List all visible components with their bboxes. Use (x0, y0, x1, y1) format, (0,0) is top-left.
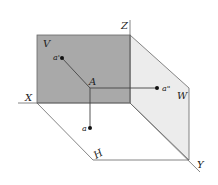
label-A: A (88, 76, 96, 87)
projection-diagram: Z X Y V W H A a' a" a (0, 0, 218, 185)
label-a-double-prime: a" (162, 84, 170, 93)
diagram-canvas: Z X Y V W H A a' a" a (0, 0, 218, 185)
label-a: a (82, 124, 87, 133)
label-z: Z (120, 20, 129, 31)
point-a-double-prime (155, 86, 159, 90)
point-a (88, 126, 92, 130)
point-a-prime (60, 56, 64, 60)
label-y: Y (197, 159, 205, 170)
label-a-prime: a' (53, 53, 60, 62)
label-w: W (177, 90, 188, 101)
v-plane (37, 35, 130, 103)
label-x: X (24, 92, 33, 103)
